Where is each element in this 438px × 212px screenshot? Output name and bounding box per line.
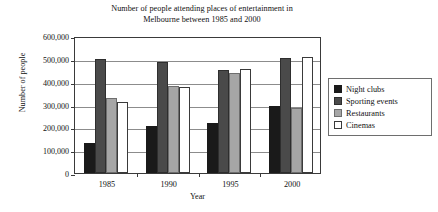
x-axis-title: Year (74, 192, 321, 201)
bar-cinemas-1990 (179, 87, 190, 173)
legend-item-sporting-events[interactable]: Sporting events (334, 95, 427, 107)
chart-title: Number of people attending places of ent… (52, 4, 352, 25)
bar-restaurants-2000 (291, 108, 302, 173)
bar-cinemas-1985 (117, 102, 128, 173)
y-tick-label: 100,000 (43, 148, 69, 156)
legend-item-cinemas[interactable]: Cinemas (334, 119, 427, 131)
legend-swatch-icon (334, 97, 342, 105)
bar-cinemas-2000 (302, 57, 313, 173)
bar-night-clubs-1990 (146, 126, 157, 173)
bar-sporting-events-1995 (218, 70, 229, 173)
legend-swatch-icon (334, 121, 342, 129)
x-tick-label-2000: 2000 (284, 180, 300, 189)
y-tick-label: 200,000 (43, 125, 69, 133)
bar-night-clubs-2000 (269, 106, 280, 173)
bar-restaurants-1985 (106, 98, 117, 173)
legend-item-night-clubs[interactable]: Night clubs (334, 83, 427, 95)
y-tick-label: 600,000 (43, 34, 69, 42)
bar-night-clubs-1985 (84, 143, 95, 173)
bar-group (207, 38, 253, 173)
legend-label: Night clubs (346, 85, 385, 94)
legend-label: Restaurants (346, 109, 385, 118)
x-tick-label-1995: 1995 (222, 180, 238, 189)
bars-container (75, 38, 320, 173)
legend-label: Cinemas (346, 121, 375, 130)
y-tick-label: 0 (65, 171, 69, 179)
y-tick-label: 300,000 (43, 103, 69, 111)
y-axis-title: Number of people (18, 28, 27, 138)
x-tick-mark (199, 173, 200, 177)
bar-group (146, 38, 192, 173)
bar-sporting-events-1985 (95, 59, 106, 173)
x-tick-label-1985: 1985 (99, 180, 115, 189)
chart-legend: Night clubsSporting eventsRestaurantsCin… (328, 78, 432, 136)
x-tick-mark (260, 173, 261, 177)
y-tick-mark (71, 175, 75, 176)
bar-sporting-events-1990 (157, 62, 168, 173)
bar-restaurants-1990 (168, 86, 179, 173)
bar-group (269, 38, 315, 173)
chart-figure: Number of people attending places of ent… (0, 0, 438, 212)
legend-swatch-icon (334, 85, 342, 93)
chart-title-line-1: Number of people attending places of ent… (52, 4, 352, 15)
bar-group (84, 38, 130, 173)
legend-item-restaurants[interactable]: Restaurants (334, 107, 427, 119)
legend-label: Sporting events (346, 97, 398, 106)
bar-night-clubs-1995 (207, 123, 218, 173)
x-tick-label-1990: 1990 (160, 180, 176, 189)
legend-swatch-icon (334, 109, 342, 117)
chart-title-line-2: Melbourne between 1985 and 2000 (52, 15, 352, 26)
y-tick-label: 500,000 (43, 57, 69, 65)
bar-sporting-events-2000 (280, 58, 291, 173)
x-tick-mark (137, 173, 138, 177)
bar-cinemas-1995 (240, 69, 251, 173)
plot-area: 0100,000200,000300,000400,000500,000600,… (74, 37, 321, 174)
bar-restaurants-1995 (229, 73, 240, 173)
y-tick-label: 400,000 (43, 80, 69, 88)
